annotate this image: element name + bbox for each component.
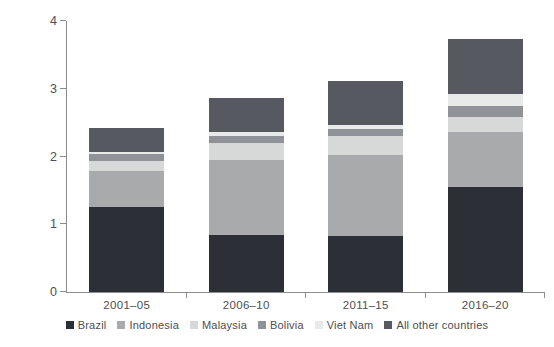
bars-row <box>67 21 545 292</box>
chart-legend: BrazilIndonesiaMalaysiaBoliviaViet NamAl… <box>0 319 554 331</box>
bar-segment-malaysia <box>209 143 284 160</box>
bar-segment-malaysia <box>89 161 164 171</box>
x-category-label: 2006–10 <box>187 299 307 311</box>
x-category-label: 2001–05 <box>67 299 187 311</box>
bar-segment-malaysia <box>328 136 403 156</box>
legend-item-bolivia: Bolivia <box>258 319 304 331</box>
bar-slot-2011-15 <box>306 21 426 292</box>
bar-segment-bolivia <box>448 106 523 116</box>
bar-segment-malaysia <box>448 117 523 133</box>
y-tick-label: 0 <box>35 286 57 298</box>
legend-label: Malaysia <box>202 319 247 331</box>
bar-segment-brazil <box>448 187 523 292</box>
legend-swatch-icon <box>315 321 323 329</box>
bar-segment-brazil <box>328 236 403 292</box>
x-tick-mark <box>305 293 306 298</box>
bar-slot-2016-20 <box>426 21 546 292</box>
y-tick-mark <box>60 88 66 89</box>
x-tick-mark <box>544 293 545 298</box>
legend-swatch-icon <box>117 321 125 329</box>
y-tick-mark <box>60 156 66 157</box>
legend-label: Bolivia <box>270 319 304 331</box>
bar-segment-bolivia <box>209 136 284 143</box>
bar-slot-2006-10 <box>187 21 307 292</box>
y-tick-label: 2 <box>35 151 57 163</box>
y-tick-label: 1 <box>35 218 57 230</box>
legend-label: Indonesia <box>129 319 179 331</box>
bar-stack <box>89 128 164 292</box>
plot-area: 01234 2001–052006–102011–152016–20 <box>66 21 545 293</box>
legend-swatch-icon <box>258 321 266 329</box>
y-tick-mark <box>60 223 66 224</box>
legend-item-all-other-countries: All other countries <box>384 319 488 331</box>
bar-segment-indonesia <box>328 155 403 236</box>
bar-segment-indonesia <box>448 132 523 187</box>
x-category-label: 2011–15 <box>306 299 426 311</box>
bar-segment-brazil <box>209 235 284 292</box>
bar-segment-brazil <box>89 207 164 292</box>
legend-label: Brazil <box>78 319 107 331</box>
bar-segment-all-other-countries <box>328 81 403 125</box>
legend-swatch-icon <box>384 321 392 329</box>
bar-stack <box>209 98 284 292</box>
legend-item-indonesia: Indonesia <box>117 319 179 331</box>
legend-item-viet-nam: Viet Nam <box>315 319 374 331</box>
bar-segment-all-other-countries <box>209 98 284 132</box>
bar-segment-viet-nam <box>448 94 523 107</box>
bar-segment-all-other-countries <box>89 128 164 152</box>
legend-item-malaysia: Malaysia <box>190 319 247 331</box>
x-category-label: 2016–20 <box>426 299 546 311</box>
y-tick-mark <box>60 20 66 21</box>
bar-stack <box>448 39 523 292</box>
y-tick-mark <box>60 291 66 292</box>
bar-stack <box>328 81 403 292</box>
y-tick-label: 3 <box>35 83 57 95</box>
legend-label: All other countries <box>396 319 488 331</box>
bar-segment-all-other-countries <box>448 39 523 93</box>
bar-segment-indonesia <box>89 171 164 207</box>
legend-label: Viet Nam <box>327 319 374 331</box>
y-tick-label: 4 <box>35 15 57 27</box>
legend-item-brazil: Brazil <box>66 319 107 331</box>
legend-swatch-icon <box>190 321 198 329</box>
x-tick-mark <box>425 293 426 298</box>
emissions-stacked-bar-chart: Emissions (GtCO2eq) 01234 2001–052006–10… <box>0 0 554 347</box>
legend-swatch-icon <box>66 321 74 329</box>
bar-slot-2001-05 <box>67 21 187 292</box>
bar-segment-indonesia <box>209 160 284 235</box>
x-tick-mark <box>186 293 187 298</box>
